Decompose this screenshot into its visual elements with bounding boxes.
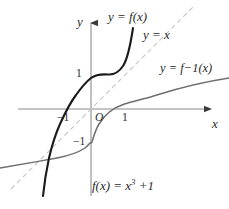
inverse-function-curve-label: y = f−1(x) xyxy=(160,62,212,75)
origin-label: O xyxy=(95,112,103,124)
identity-line-label: y = x xyxy=(143,28,170,41)
y-tick-label-one: 1 xyxy=(76,68,82,80)
function-curve-label: y = f(x) xyxy=(108,10,147,23)
x-tick-label-one: 1 xyxy=(122,112,128,124)
y-tick-label-negative-one: −1 xyxy=(73,136,85,148)
formula-base: f(x) = x xyxy=(92,178,131,193)
inverse-label-text: y = f−1(x) xyxy=(160,61,212,75)
formula-tail: +1 xyxy=(136,178,155,193)
y-axis-label: y xyxy=(77,15,83,28)
x-axis-label: x xyxy=(212,117,218,130)
x-tick-label-negative-one: −1 xyxy=(57,112,69,124)
math-figure: y = f(x) y = x y = f−1(x) f(x) = x3 +1 y… xyxy=(0,0,229,209)
formula-label: f(x) = x3 +1 xyxy=(92,178,154,192)
inverse-function-curve xyxy=(0,78,229,168)
